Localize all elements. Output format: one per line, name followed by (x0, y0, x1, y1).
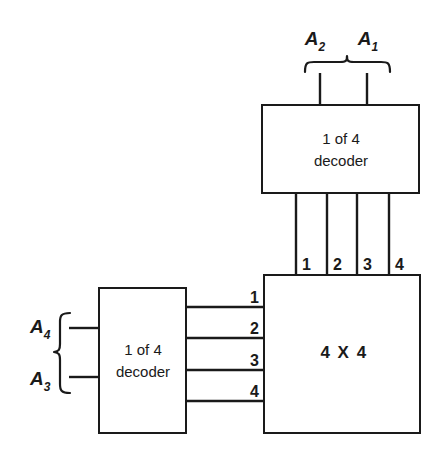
row-select-label-3: 3 (250, 352, 259, 369)
memory-matrix-label: 4 X 4 (320, 343, 367, 362)
address-label-a3: A3 (29, 368, 51, 394)
address-label-a1: A1 (357, 28, 379, 54)
top-decoder-block (262, 105, 419, 193)
row-select-label-4: 4 (250, 383, 259, 400)
address-label-a2: A2 (304, 28, 326, 54)
left-decoder-block (99, 288, 186, 433)
address-label-a4: A4 (29, 316, 51, 342)
top-address-brace-group (305, 56, 390, 72)
left-address-brace-group (54, 313, 70, 393)
column-select-label-4: 4 (395, 256, 404, 273)
left-decoder-label-line1: 1 of 4 (124, 341, 162, 358)
top-address-brace-icon (305, 56, 390, 72)
top-decoder-label-line1: 1 of 4 (322, 130, 360, 147)
row-select-label-2: 2 (250, 320, 259, 337)
memory-decoder-diagram: A2 A1 1 of 4 decoder 1 2 3 4 A4 A3 (0, 0, 445, 464)
column-select-label-2: 2 (333, 256, 342, 273)
diagram-canvas: A2 A1 1 of 4 decoder 1 2 3 4 A4 A3 (0, 0, 445, 464)
column-select-label-1: 1 (302, 256, 311, 273)
top-decoder-label-line2: decoder (314, 152, 368, 169)
column-select-label-3: 3 (363, 256, 372, 273)
left-address-brace-icon (54, 313, 70, 393)
row-select-label-1: 1 (250, 289, 259, 306)
left-decoder-label-line2: decoder (116, 363, 170, 380)
